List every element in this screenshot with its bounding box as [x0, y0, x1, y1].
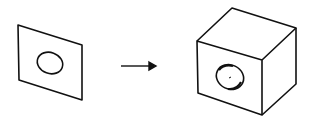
cube — [197, 8, 296, 115]
cube-right-face — [262, 28, 296, 115]
cube-top-face — [197, 8, 296, 60]
diagram-canvas — [0, 0, 314, 120]
transform-arrow — [121, 62, 156, 70]
arrow-head — [149, 62, 156, 70]
cube-hole — [212, 60, 248, 94]
panel-outline — [18, 25, 82, 100]
flat-panel — [18, 25, 82, 100]
panel-hole — [34, 49, 66, 78]
